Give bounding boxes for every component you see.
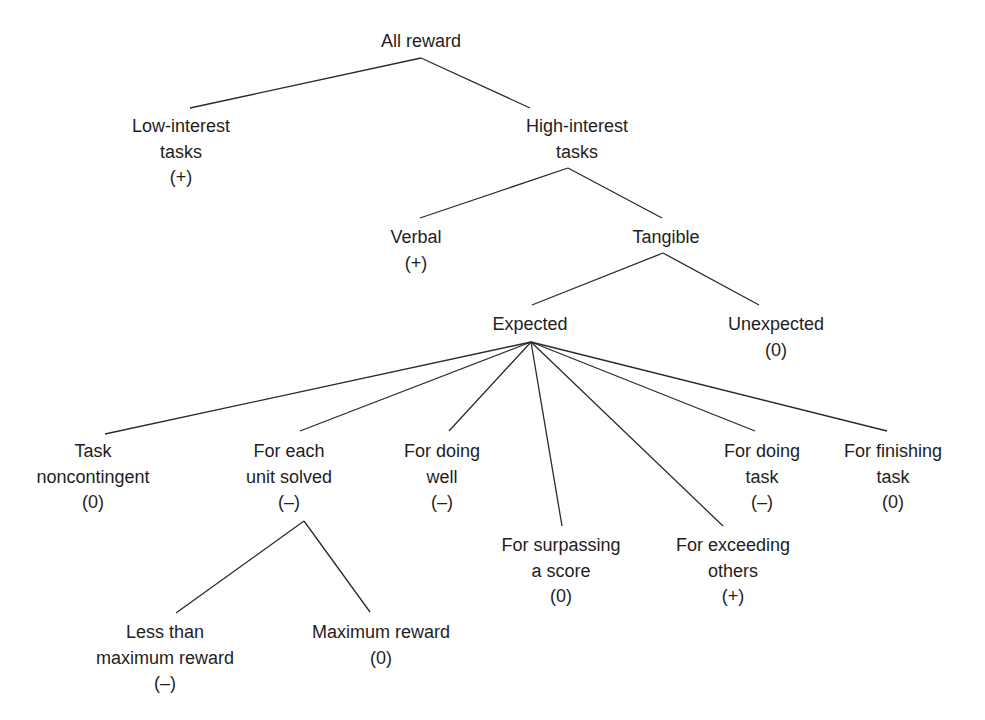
node-effect: (0) (36, 490, 149, 516)
node-label: All reward (381, 29, 461, 55)
node-unexpected: Unexpected (0) (728, 312, 824, 363)
node-for-each-unit-solved: For each unit solved (–) (246, 439, 332, 516)
node-effect: (0) (312, 646, 450, 672)
node-effect: (+) (132, 165, 230, 191)
node-label: Low-interest (132, 114, 230, 140)
node-low-interest-tasks: Low-interest tasks (+) (132, 114, 230, 191)
node-effect: (–) (246, 490, 332, 516)
node-label: For surpassing (501, 533, 620, 559)
node-label: well (404, 465, 480, 491)
node-label: maximum reward (96, 646, 234, 672)
node-for-finishing-task: For finishing task (0) (844, 439, 942, 516)
node-effect: (0) (844, 490, 942, 516)
node-effect: (0) (501, 584, 620, 610)
edge-unit-to-max (304, 521, 370, 612)
node-label: High-interest (526, 114, 628, 140)
node-verbal: Verbal (+) (390, 225, 441, 276)
node-label: Unexpected (728, 312, 824, 338)
node-less-than-maximum-reward: Less than maximum reward (–) (96, 620, 234, 697)
node-tangible: Tangible (632, 225, 699, 251)
node-expected: Expected (492, 312, 567, 338)
node-all-reward: All reward (381, 29, 461, 55)
node-label: tasks (132, 140, 230, 166)
edge-high-to-tangible (568, 168, 662, 218)
edge-all-to-high (421, 58, 530, 108)
edge-tangible-to-expected (532, 253, 663, 305)
node-label: tasks (526, 140, 628, 166)
edge-expected-to-doing-task (531, 342, 755, 431)
edge-expected-to-doing-well (449, 342, 531, 431)
node-label: Task (36, 439, 149, 465)
node-label: a score (501, 559, 620, 585)
node-label: For exceeding (676, 533, 790, 559)
node-label: For finishing (844, 439, 942, 465)
node-for-doing-well: For doing well (–) (404, 439, 480, 516)
node-label: Expected (492, 312, 567, 338)
node-label: For doing (404, 439, 480, 465)
node-label: task (844, 465, 942, 491)
edge-tangible-to-unexpected (663, 253, 759, 305)
node-label: noncontingent (36, 465, 149, 491)
node-label: Maximum reward (312, 620, 450, 646)
edge-expected-to-exceeding (531, 342, 723, 526)
node-label: For doing (724, 439, 800, 465)
edge-high-to-verbal (420, 168, 568, 218)
node-label: unit solved (246, 465, 332, 491)
node-for-doing-task: For doing task (–) (724, 439, 800, 516)
edge-expected-to-unit-solved (300, 342, 531, 431)
edge-unit-to-less-than-max (176, 521, 304, 613)
node-effect: (–) (724, 490, 800, 516)
node-label: Verbal (390, 225, 441, 251)
node-task-noncontingent: Task noncontingent (0) (36, 439, 149, 516)
node-label: others (676, 559, 790, 585)
node-effect: (+) (676, 584, 790, 610)
edge-expected-to-surpassing (531, 342, 562, 526)
edge-all-to-low (190, 58, 421, 108)
node-for-exceeding-others: For exceeding others (+) (676, 533, 790, 610)
node-label: For each (246, 439, 332, 465)
node-effect: (–) (96, 671, 234, 697)
edge-expected-to-finishing (531, 342, 887, 431)
node-effect: (+) (390, 251, 441, 277)
node-label: task (724, 465, 800, 491)
node-label: Tangible (632, 225, 699, 251)
node-high-interest-tasks: High-interest tasks (526, 114, 628, 165)
node-maximum-reward: Maximum reward (0) (312, 620, 450, 671)
node-for-surpassing-a-score: For surpassing a score (0) (501, 533, 620, 610)
node-label: Less than (96, 620, 234, 646)
node-effect: (0) (728, 338, 824, 364)
node-effect: (–) (404, 490, 480, 516)
edge-expected-to-noncontingent (105, 342, 531, 434)
tree-edges (0, 0, 985, 720)
